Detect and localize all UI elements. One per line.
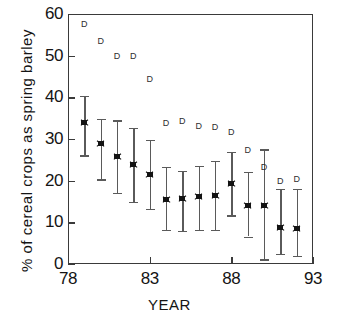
data-point-marker <box>261 203 267 208</box>
error-bar-cap <box>244 172 253 173</box>
d-marker: D <box>97 37 104 46</box>
x-tick-mark <box>313 257 314 264</box>
error-bar-cap <box>113 193 122 194</box>
data-point-marker <box>163 197 169 202</box>
d-marker: D <box>261 162 268 171</box>
error-bar-cap <box>260 259 269 260</box>
chart-container: 0102030405060 78838893 DDDDDDDDDDDDDD YE… <box>0 0 339 320</box>
error-bar-cap <box>129 128 138 129</box>
error-bar-cap <box>276 254 285 255</box>
d-marker: D <box>179 117 186 126</box>
error-bar-cap <box>195 230 204 231</box>
y-tick-mark <box>68 222 75 223</box>
error-bar <box>84 96 85 155</box>
error-bar-cap <box>227 215 236 216</box>
x-tick-label: 93 <box>283 270 339 287</box>
error-bar <box>280 189 281 254</box>
y-tick-label: 10 <box>45 213 63 230</box>
x-tick-label: 83 <box>120 270 180 287</box>
y-axis-title: % of cereal crops as spring barley <box>18 29 35 272</box>
x-tick-mark <box>231 257 232 264</box>
y-tick-mark <box>68 14 75 15</box>
y-tick-mark <box>68 139 75 140</box>
error-bar-cap <box>146 140 155 141</box>
error-bar-cap <box>80 96 89 97</box>
error-bar-cap <box>97 119 106 120</box>
y-tick-label: 50 <box>45 47 63 64</box>
d-marker: D <box>81 20 88 29</box>
d-marker: D <box>114 52 121 61</box>
error-bar-cap <box>80 155 89 156</box>
y-tick-mark <box>68 264 75 265</box>
y-tick-label: 60 <box>45 5 63 22</box>
data-point-marker <box>114 154 120 159</box>
error-bar-cap <box>146 209 155 210</box>
error-bar-cap <box>276 189 285 190</box>
d-marker: D <box>130 51 137 60</box>
x-axis-title: YEAR <box>0 296 339 313</box>
data-point-marker <box>196 194 202 199</box>
d-marker: D <box>146 75 153 84</box>
d-marker: D <box>228 127 235 136</box>
y-tick-mark <box>68 56 75 57</box>
data-point-marker <box>245 203 251 208</box>
error-bar-cap <box>211 161 220 162</box>
x-tick-mark <box>150 257 151 264</box>
data-point-marker <box>212 193 218 198</box>
error-bar-cap <box>129 202 138 203</box>
d-marker: D <box>277 176 284 185</box>
y-tick-mark <box>68 181 75 182</box>
d-marker: D <box>212 123 219 132</box>
error-bar-cap <box>260 149 269 150</box>
error-bar-cap <box>195 166 204 167</box>
error-bar-cap <box>178 171 187 172</box>
data-point-marker <box>130 162 136 167</box>
data-point-marker <box>277 225 283 230</box>
d-marker: D <box>163 119 170 128</box>
y-tick-label: 40 <box>45 88 63 105</box>
error-bar-cap <box>211 230 220 231</box>
data-point-marker <box>294 226 300 231</box>
error-bar <box>101 119 102 179</box>
error-bar <box>297 189 298 256</box>
error-bar-cap <box>244 237 253 238</box>
error-bar-cap <box>162 167 171 168</box>
error-bar-cap <box>162 230 171 231</box>
y-tick-label: 20 <box>45 172 63 189</box>
x-tick-label: 78 <box>38 270 98 287</box>
error-bar-cap <box>227 152 236 153</box>
plot-frame <box>68 14 313 264</box>
error-bar-cap <box>293 256 302 257</box>
x-tick-mark <box>68 257 69 264</box>
data-point-marker <box>81 120 87 125</box>
d-marker: D <box>195 122 202 131</box>
data-point-marker <box>147 172 153 177</box>
y-tick-label: 30 <box>45 130 63 147</box>
data-point-marker <box>98 141 104 146</box>
error-bar-cap <box>97 179 106 180</box>
y-tick-mark <box>68 97 75 98</box>
error-bar-cap <box>293 189 302 190</box>
error-bar-cap <box>178 231 187 232</box>
d-marker: D <box>244 145 251 154</box>
d-marker: D <box>293 175 300 184</box>
error-bar-cap <box>113 120 122 121</box>
x-tick-label: 88 <box>201 270 261 287</box>
data-point-marker <box>179 196 185 201</box>
data-point-marker <box>228 181 234 186</box>
